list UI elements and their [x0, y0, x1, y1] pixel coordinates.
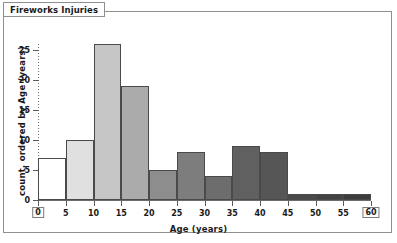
bar-10-15[interactable]: [94, 44, 122, 200]
bar-15-20[interactable]: [121, 86, 149, 200]
x-tick-label-0[interactable]: 0: [32, 207, 44, 218]
x-tick-label-25: 25: [171, 209, 182, 218]
y-tick-15: [33, 110, 39, 111]
x-tick-label-50: 50: [310, 209, 321, 218]
x-tick-45: [288, 201, 289, 206]
x-tick-label-15: 15: [116, 209, 127, 218]
bar-45-50[interactable]: [288, 194, 316, 200]
x-tick-label-60[interactable]: 60: [362, 207, 379, 218]
x-tick-label-20: 20: [143, 209, 154, 218]
x-tick-35: [232, 201, 233, 206]
x-tick-30: [205, 201, 206, 206]
x-tick-20: [149, 201, 150, 206]
x-tick-label-30: 30: [199, 209, 210, 218]
x-tick-label-55: 55: [338, 209, 349, 218]
x-tick-0: [38, 201, 39, 206]
x-tick-label-5: 5: [63, 209, 69, 218]
bar-20-25[interactable]: [149, 170, 177, 200]
x-tick-10: [94, 201, 95, 206]
x-tick-15: [121, 201, 122, 206]
x-tick-25: [177, 201, 178, 206]
x-axis-title: Age (years): [0, 224, 397, 234]
bar-55-60[interactable]: [343, 194, 371, 200]
chart-window: Fireworks Injuries 0 5 10 15 20 25 05101…: [0, 0, 397, 243]
y-tick-20: [33, 80, 39, 81]
x-tick-60: [371, 201, 372, 206]
bar-25-30[interactable]: [177, 152, 205, 200]
bar-40-45[interactable]: [260, 152, 288, 200]
bar-30-35[interactable]: [205, 176, 233, 200]
bar-5-10[interactable]: [66, 140, 94, 200]
bar-50-55[interactable]: [316, 194, 344, 200]
y-axis-title: count, ordered by Age (years): [17, 41, 27, 201]
y-tick-10: [33, 140, 39, 141]
x-tick-40: [260, 201, 261, 206]
x-tick-label-10: 10: [88, 209, 99, 218]
x-tick-label-45: 45: [282, 209, 293, 218]
window-title-tab[interactable]: Fireworks Injuries: [3, 2, 105, 17]
x-tick-label-40: 40: [254, 209, 265, 218]
x-tick-55: [343, 201, 344, 206]
x-tick-50: [316, 201, 317, 206]
plot-area: 0 5 10 15 20 25 051015202530354045505560…: [0, 0, 397, 243]
bar-35-40[interactable]: [232, 146, 260, 200]
x-tick-label-35: 35: [227, 209, 238, 218]
y-tick-25: [33, 50, 39, 51]
x-tick-5: [66, 201, 67, 206]
bar-0-5[interactable]: [38, 158, 66, 200]
